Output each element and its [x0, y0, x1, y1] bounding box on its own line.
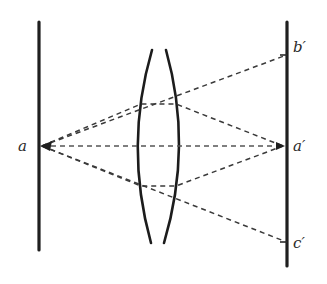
label-a: a [18, 137, 27, 155]
a-source-mark-icon [40, 141, 52, 151]
diagram-canvas: a b′ a′ c′ [0, 0, 327, 284]
refracted-ray-lower [42, 146, 283, 186]
lens-optics-diagram: a b′ a′ c′ [0, 0, 327, 284]
label-b-prime: b′ [293, 38, 307, 56]
refracted-ray-upper [42, 104, 283, 146]
a-prime-arrowhead-icon [276, 142, 285, 150]
label-a-prime: a′ [293, 137, 306, 155]
label-c-prime: c′ [293, 234, 305, 252]
